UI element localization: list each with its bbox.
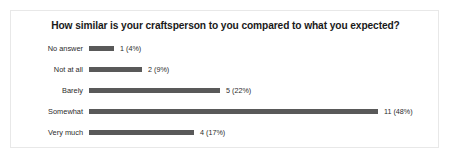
bar-value-not-at-all: 2 (9%): [148, 60, 169, 80]
bar-not-at-all[interactable]: [89, 67, 142, 72]
category-label-barely: Barely: [11, 81, 83, 101]
category-label-somewhat: Somewhat: [11, 102, 83, 122]
category-label-no-answer: No answer: [11, 39, 83, 59]
category-label-not-at-all: Not at all: [11, 60, 83, 80]
bar-track: 11 (48%): [89, 102, 440, 122]
bar-row: Somewhat 11 (48%): [11, 102, 440, 122]
bar-row: Very much 4 (17%): [11, 123, 440, 143]
bar-somewhat[interactable]: [89, 109, 378, 114]
bar-no-answer[interactable]: [89, 46, 114, 51]
bar-row: Not at all 2 (9%): [11, 60, 440, 80]
bar-track: 1 (4%): [89, 39, 440, 59]
chart-title: How similar is your craftsperson to you …: [11, 20, 440, 31]
bar-value-somewhat: 11 (48%): [384, 102, 413, 122]
bar-track: 2 (9%): [89, 60, 440, 80]
bar-track: 5 (22%): [89, 81, 440, 101]
bar-value-barely: 5 (22%): [226, 81, 251, 101]
bar-barely[interactable]: [89, 88, 220, 93]
bar-very-much[interactable]: [89, 130, 194, 135]
bar-row: Barely 5 (22%): [11, 81, 440, 101]
bar-row: No answer 1 (4%): [11, 39, 440, 59]
bar-track: 4 (17%): [89, 123, 440, 143]
bar-value-no-answer: 1 (4%): [120, 39, 141, 59]
bar-value-very-much: 4 (17%): [200, 123, 225, 143]
chart-frame: How similar is your craftsperson to you …: [10, 10, 439, 148]
bar-chart-plot-area: No answer 1 (4%) Not at all 2 (9%) Barel…: [11, 39, 440, 145]
category-label-very-much: Very much: [11, 123, 83, 143]
